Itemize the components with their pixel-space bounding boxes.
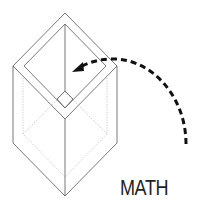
arrow-path: [80, 59, 186, 144]
math-box-diagram: [0, 0, 206, 207]
arrowhead-icon: [72, 62, 84, 72]
box-outline: [13, 13, 117, 196]
curved-arrow: [72, 59, 186, 144]
diagram-label: MATH: [120, 176, 168, 200]
